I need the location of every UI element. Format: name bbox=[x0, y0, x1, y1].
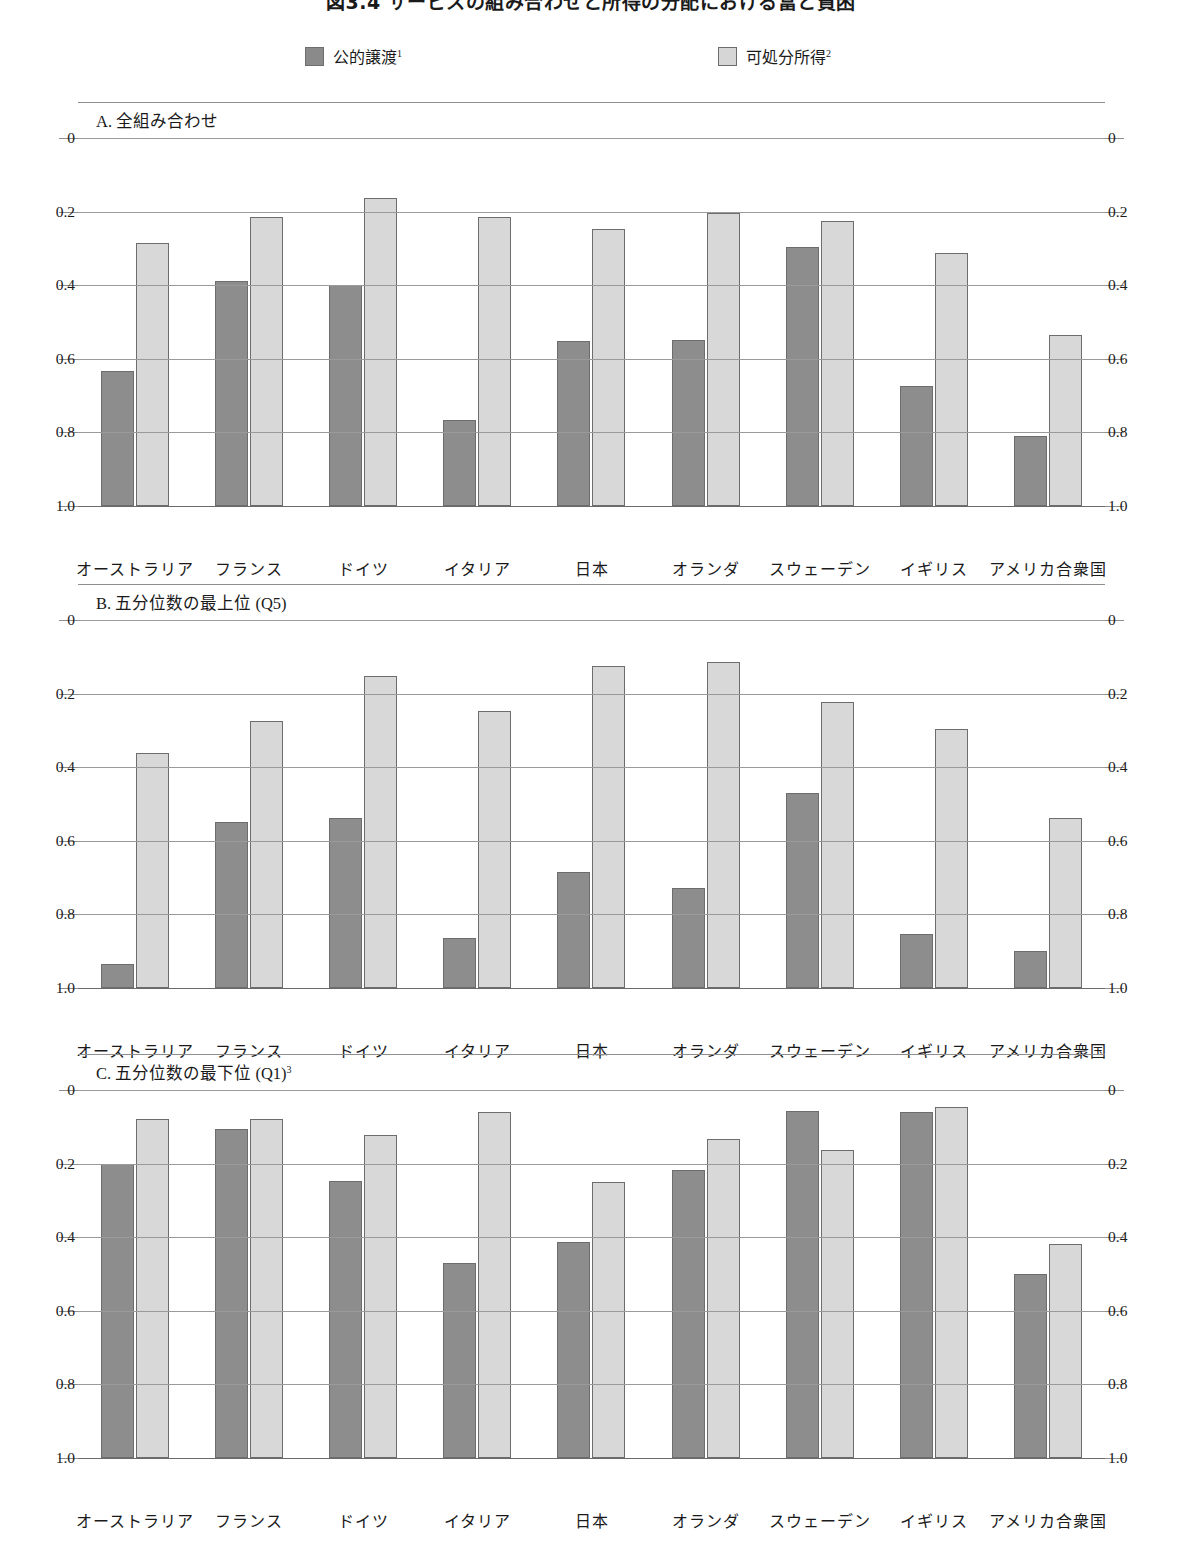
bar-disposable-income bbox=[707, 662, 740, 988]
x-axis-label: オーストラリア bbox=[76, 556, 194, 580]
bar-group bbox=[420, 620, 534, 988]
bar-group bbox=[306, 1090, 420, 1458]
bar-public-transfers bbox=[101, 371, 134, 506]
y-axis-label-left-0.4: 0.6 bbox=[56, 1303, 75, 1319]
gridline-0.2 bbox=[78, 1384, 1105, 1385]
y-axis-label-left-0.2: 0.8 bbox=[56, 424, 75, 440]
bar-disposable-income bbox=[935, 1107, 968, 1458]
x-axis-label: フランス bbox=[215, 1508, 283, 1532]
bar-public-transfers bbox=[900, 386, 933, 506]
x-axis-label: イギリス bbox=[900, 1508, 968, 1532]
bar-public-transfers bbox=[101, 964, 134, 988]
gridline-0.6 bbox=[78, 767, 1105, 768]
legend-item-disposable-income: 可処分所得2 bbox=[718, 44, 831, 68]
bar-disposable-income bbox=[1049, 335, 1082, 506]
panel-a-plot-area: 1.01.00.80.80.60.60.40.40.20.200オーストラリアフ… bbox=[78, 138, 1105, 506]
bar-disposable-income bbox=[250, 217, 283, 506]
gridline-0.8 bbox=[78, 1164, 1105, 1165]
gridline-0 bbox=[78, 988, 1105, 989]
bar-disposable-income bbox=[592, 229, 625, 506]
gridline-0 bbox=[78, 1458, 1105, 1459]
y-axis-label-left-1: 0 bbox=[67, 612, 75, 628]
gridline-0.2 bbox=[78, 432, 1105, 433]
bar-disposable-income bbox=[935, 253, 968, 506]
x-axis-label: スウェーデン bbox=[769, 556, 871, 580]
panel-b-plot-area: 1.01.00.80.80.60.60.40.40.20.200オーストラリアフ… bbox=[78, 620, 1105, 988]
x-axis-label: 日本 bbox=[575, 556, 609, 580]
y-axis-label-right-0.8: 0.2 bbox=[1108, 204, 1127, 220]
bar-group bbox=[192, 138, 306, 506]
y-axis-label-right-0.8: 0.2 bbox=[1108, 1156, 1127, 1172]
bar-public-transfers bbox=[215, 822, 248, 988]
figure-title: 図3.4 サービスの組み合わせと所得の分配における富と貧困 bbox=[0, 0, 1182, 14]
bar-group bbox=[306, 138, 420, 506]
x-axis-label: アメリカ合衆国 bbox=[989, 556, 1107, 580]
bar-public-transfers bbox=[672, 1170, 705, 1458]
y-axis-label-right-0.6: 0.4 bbox=[1108, 277, 1127, 293]
x-axis-label: オーストラリア bbox=[76, 1508, 194, 1532]
legend-item-public-transfers: 公的譲渡1 bbox=[305, 44, 402, 68]
bar-disposable-income bbox=[1049, 1244, 1082, 1458]
bar-group bbox=[763, 620, 877, 988]
gridline-0.6 bbox=[78, 1237, 1105, 1238]
gridline-0.4 bbox=[78, 359, 1105, 360]
legend-label-disposable-income: 可処分所得2 bbox=[746, 44, 831, 68]
bar-group bbox=[877, 620, 991, 988]
gridline-0.2 bbox=[78, 914, 1105, 915]
y-axis-label-right-0.4: 0.6 bbox=[1108, 351, 1127, 367]
y-axis-label-right-0.6: 0.4 bbox=[1108, 759, 1127, 775]
y-axis-label-left-1: 0 bbox=[67, 1082, 75, 1098]
legend-label-public-transfers: 公的譲渡1 bbox=[333, 44, 402, 68]
bar-public-transfers bbox=[900, 934, 933, 988]
y-axis-label-right-0.4: 0.6 bbox=[1108, 1303, 1127, 1319]
gridline-1 bbox=[78, 1090, 1105, 1091]
gridline-0 bbox=[78, 506, 1105, 507]
y-axis-label-left-0.6: 0.4 bbox=[56, 1229, 75, 1245]
bar-public-transfers bbox=[215, 281, 248, 506]
x-axis-label: オランダ bbox=[672, 1508, 740, 1532]
y-axis-label-left-0: 1.0 bbox=[56, 1450, 75, 1466]
bar-public-transfers bbox=[1014, 951, 1047, 988]
bar-public-transfers bbox=[672, 888, 705, 988]
bar-group bbox=[991, 620, 1105, 988]
gridline-0.6 bbox=[78, 285, 1105, 286]
x-axis-label: オランダ bbox=[672, 556, 740, 580]
bar-group bbox=[420, 138, 534, 506]
legend-swatch-public-transfers bbox=[305, 47, 324, 66]
bar-group bbox=[192, 1090, 306, 1458]
y-axis-label-right-0.2: 0.8 bbox=[1108, 1376, 1127, 1392]
bar-public-transfers bbox=[215, 1129, 248, 1458]
bar-public-transfers bbox=[329, 1181, 362, 1458]
bar-disposable-income bbox=[364, 198, 397, 506]
bar-disposable-income bbox=[364, 676, 397, 988]
y-axis-label-right-0: 1.0 bbox=[1108, 498, 1127, 514]
bar-group bbox=[78, 620, 192, 988]
bar-disposable-income bbox=[136, 243, 169, 506]
bar-disposable-income bbox=[707, 1139, 740, 1458]
bar-public-transfers bbox=[672, 340, 705, 506]
x-axis-label: イギリス bbox=[900, 556, 968, 580]
panel-c-bars bbox=[78, 1090, 1105, 1458]
bar-public-transfers bbox=[329, 285, 362, 506]
y-axis-label-right-0.2: 0.8 bbox=[1108, 424, 1127, 440]
bar-group bbox=[534, 138, 648, 506]
y-axis-label-left-0.2: 0.8 bbox=[56, 1376, 75, 1392]
panel-b-bars bbox=[78, 620, 1105, 988]
x-axis-label: イタリア bbox=[444, 556, 511, 580]
x-axis-label: 日本 bbox=[575, 1508, 609, 1532]
bar-disposable-income bbox=[250, 721, 283, 988]
panel-b-title: B. 五分位数の最上位 (Q5) bbox=[96, 590, 287, 614]
y-axis-label-right-0.4: 0.6 bbox=[1108, 833, 1127, 849]
bar-disposable-income bbox=[592, 1182, 625, 1458]
bar-group bbox=[649, 620, 763, 988]
panel-c-plot-area: 1.01.00.80.80.60.60.40.40.20.200オーストラリアフ… bbox=[78, 1090, 1105, 1458]
bar-group bbox=[763, 138, 877, 506]
bar-group bbox=[78, 1090, 192, 1458]
bar-public-transfers bbox=[557, 341, 590, 506]
gridline-0.8 bbox=[78, 212, 1105, 213]
bar-group bbox=[192, 620, 306, 988]
bar-group bbox=[78, 138, 192, 506]
bar-group bbox=[649, 1090, 763, 1458]
bar-disposable-income bbox=[136, 1119, 169, 1458]
chart-panel-c: C. 五分位数の最下位 (Q1)3 1.01.00.80.80.60.60.40… bbox=[0, 1048, 1182, 1498]
